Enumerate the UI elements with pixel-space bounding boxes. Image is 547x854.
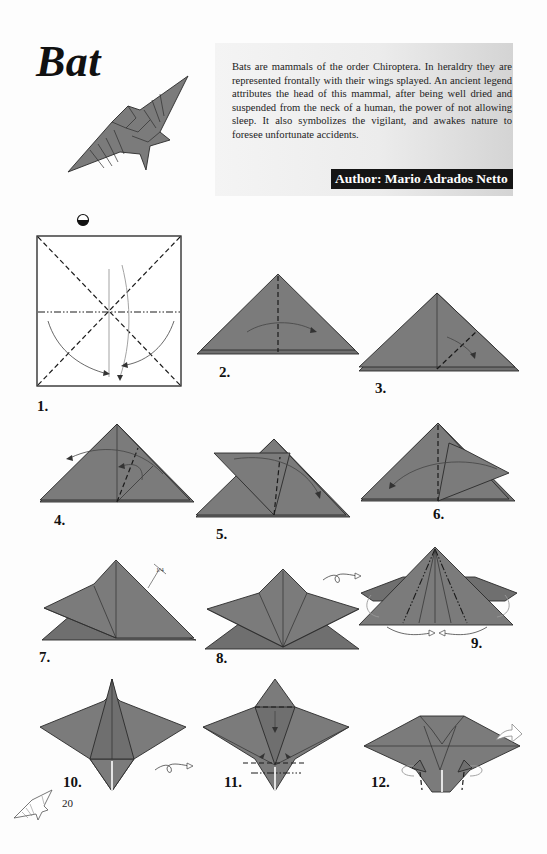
step-3-diagram [357,291,527,373]
step-1-diagram [36,235,182,387]
step-2-diagram [195,272,365,356]
bat-thumbnail-icon [12,788,56,820]
description-text: Bats are mammals of the order Chiroptera… [232,60,512,142]
step-number-7: 7. [39,650,50,665]
finished-bat-illustration [60,70,200,180]
step-9-diagram [357,545,519,629]
turn-over-arrow-icon [153,760,195,776]
step-6-diagram [359,421,519,503]
step-number-10: 10. [63,775,82,790]
step-number-8: 8. [216,651,227,666]
author-badge: Author: Mario Adrados Netto [331,169,513,189]
step-number-1: 1. [37,399,48,414]
step-number-9: 9. [471,636,482,651]
step-number-5: 5. [216,527,227,542]
quarter-annotation: 1/4 [156,567,164,573]
page-number: 20 [62,797,73,809]
step-4-diagram [38,422,198,504]
step-number-4: 4. [54,513,65,528]
step-number-12: 12. [371,775,390,790]
step-5-diagram [194,437,354,519]
step-number-3: 3. [375,381,386,396]
turn-over-icon [76,213,90,227]
step-number-11: 11. [224,775,242,790]
origami-instruction-page: Bat Bats are mammals of the order Chirop… [0,0,547,854]
step-number-6: 6. [433,507,444,522]
step-7-diagram: 1/4 [40,558,200,642]
step-number-2: 2. [219,365,230,380]
